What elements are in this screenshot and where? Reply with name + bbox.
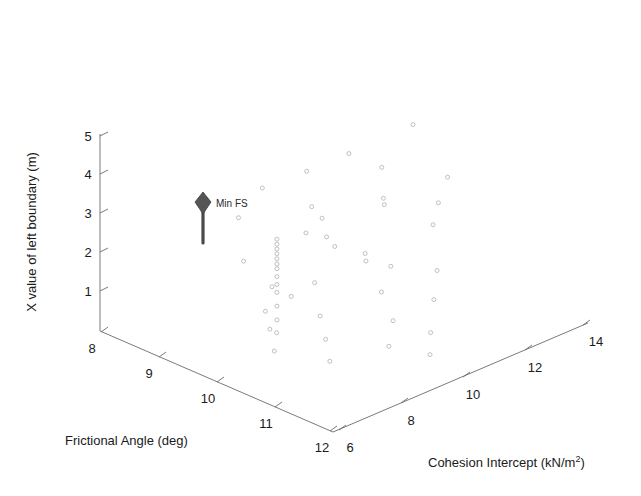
data-point [347,152,351,156]
data-point [275,318,279,322]
data-point [364,259,368,263]
axis-lines [100,134,588,432]
y-tick-label-8: 8 [407,413,414,428]
data-point [268,327,272,331]
z-tick-5 [100,132,108,136]
data-point [275,262,279,266]
scatter-plot-3d: 5 4 3 2 1 8 9 10 11 12 6 8 [0,0,641,496]
z-tick-2 [100,248,108,252]
data-point [411,123,415,127]
data-point [275,252,279,256]
data-point [304,231,308,235]
z-tick-label-1: 1 [84,284,91,299]
y-tick-6 [339,425,346,430]
data-point [270,285,274,289]
data-point [325,235,329,239]
data-point [431,223,435,227]
y-tick-label-6: 6 [346,440,353,455]
data-point [305,169,309,173]
data-point [436,201,440,205]
data-point [363,251,367,255]
x-tick-10 [217,377,224,382]
data-point [275,290,279,294]
x-tick-label-12: 12 [315,440,329,455]
data-point [333,244,337,248]
data-point [275,304,279,308]
data-point [328,359,332,363]
x-axis-line [100,331,333,432]
y-tick-label-12: 12 [528,360,542,375]
z-axis-title: X value of left boundary (m) [24,152,39,312]
y-axis-line [333,323,588,432]
data-point [263,309,267,313]
x-tick-label-9: 9 [145,366,152,381]
data-point [324,337,328,341]
data-point [275,237,279,241]
y-tick-label-10: 10 [466,387,480,402]
data-point [275,242,279,246]
y-tick-label-14: 14 [589,334,603,349]
data-point [435,269,439,273]
data-point [387,344,391,348]
x-tick-label-10: 10 [201,391,215,406]
data-point [289,294,293,298]
x-tick-label-8: 8 [88,341,95,356]
data-point [275,257,279,261]
data-point [275,247,279,251]
z-tick-3 [100,209,108,213]
y-axis-title-main: Cohesion Intercept (kN/m [428,455,575,470]
data-point [320,216,324,220]
data-point [429,331,433,335]
data-point [428,353,432,357]
figure-canvas: 5 4 3 2 1 8 9 10 11 12 6 8 [0,0,641,496]
data-point [275,282,279,286]
data-point [389,264,393,268]
data-point [260,186,264,190]
x-axis-title: Frictional Angle (deg) [65,433,188,448]
y-tick-14 [583,320,590,325]
y-axis-title-tail: ) [580,455,584,470]
data-point [272,349,276,353]
data-point [391,319,395,323]
data-point [275,267,279,271]
y-tick-10 [463,372,470,377]
z-tick-label-5: 5 [84,129,91,144]
x-tick-8 [101,327,108,332]
z-tick-label-2: 2 [84,245,91,260]
data-point [242,259,246,263]
y-axis-title: Cohesion Intercept (kN/m2) [428,454,585,470]
min-fs-pin-icon [195,192,211,214]
data-point [379,290,383,294]
x-tick-11 [275,402,282,407]
data-point [446,175,450,179]
data-point [310,205,314,209]
data-point [380,165,384,169]
y-axis-ticks: 6 8 10 12 14 [339,320,603,455]
data-point [275,331,279,335]
x-tick-label-11: 11 [259,416,273,431]
data-point [381,196,385,200]
z-tick-label-3: 3 [84,206,91,221]
z-axis-ticks: 5 4 3 2 1 [84,129,108,299]
z-tick-label-4: 4 [84,167,91,182]
data-point [313,281,317,285]
data-point [318,314,322,318]
z-tick-4 [100,170,108,174]
data-point [237,216,241,220]
x-tick-9 [159,352,166,357]
min-fs-annotation: Min FS [195,192,248,243]
data-points-layer [237,123,450,364]
min-fs-label: Min FS [216,198,248,209]
z-tick-1 [100,287,108,291]
data-point [432,298,436,302]
data-point [382,203,386,207]
data-point [275,275,279,279]
